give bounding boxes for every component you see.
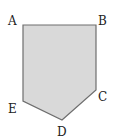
vertex-label-a: A [7,14,17,28]
vertex-label-e: E [8,102,17,116]
pentagon-diagram: A B C D E [0,0,130,140]
pentagon-abcde [23,25,96,120]
vertex-label-c: C [98,90,107,104]
vertex-label-d: D [57,125,67,139]
vertex-label-b: B [98,14,107,28]
